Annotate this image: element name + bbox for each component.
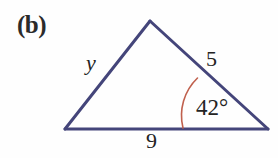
side-label-y: y <box>86 52 96 74</box>
side-label-9: 9 <box>146 130 157 152</box>
side-label-5: 5 <box>206 48 217 70</box>
triangle-side-left <box>65 21 150 129</box>
figure-container: (b) y 5 42° 9 <box>0 0 278 158</box>
angle-label-42: 42° <box>196 96 228 119</box>
part-label-b: (b) <box>17 12 46 37</box>
triangle-outline <box>65 21 268 129</box>
